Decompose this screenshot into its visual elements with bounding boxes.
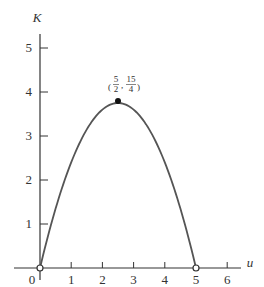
y-axis-label: K — [32, 10, 43, 25]
y-tick-label: 1 — [26, 216, 33, 231]
curve — [40, 103, 196, 268]
x-tick-label: 4 — [162, 272, 169, 287]
max-point-annotation: (52,154) — [108, 74, 140, 94]
svg-text:(: ( — [108, 82, 111, 92]
y-tick-label: 3 — [26, 128, 33, 143]
axes — [14, 34, 241, 280]
svg-text:2: 2 — [114, 84, 119, 94]
x-tick-label: 2 — [99, 272, 106, 287]
x-tick-label: 5 — [193, 272, 200, 287]
svg-text:): ) — [137, 82, 140, 92]
x-tick-label: 6 — [224, 272, 231, 287]
x-tick-label: 1 — [68, 272, 75, 287]
svg-text:5: 5 — [114, 74, 119, 84]
y-tick-label: 4 — [26, 84, 33, 99]
svg-text:,: , — [121, 80, 123, 90]
chart: 012345612345Ku(52,154) — [0, 0, 264, 287]
markers — [37, 98, 199, 271]
open-endpoint-marker — [37, 265, 43, 271]
max-point-marker — [115, 98, 121, 104]
open-endpoint-marker — [193, 265, 199, 271]
x-tick-label: 0 — [29, 272, 36, 287]
x-axis-label: u — [247, 255, 254, 270]
y-tick-label: 5 — [26, 40, 33, 55]
svg-text:15: 15 — [127, 74, 137, 84]
y-tick-label: 2 — [26, 172, 33, 187]
x-tick-label: 3 — [130, 272, 137, 287]
labels: 012345612345Ku(52,154) — [26, 10, 254, 287]
svg-text:4: 4 — [129, 84, 134, 94]
